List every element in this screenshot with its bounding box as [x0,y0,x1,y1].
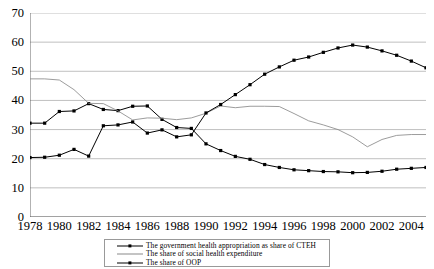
data-point-0-17 [278,166,281,169]
data-point-2-8 [146,131,149,134]
data-point-2-9 [160,128,163,131]
data-point-0-26 [410,167,413,170]
legend-item-2: The share of OOP [105,259,329,267]
y-tick-label-20: 20 [0,152,24,165]
data-point-0-12 [204,142,207,145]
data-point-0-11 [190,127,193,130]
data-point-0-3 [72,109,75,112]
data-point-0-16 [263,163,266,166]
x-tick-label-1994: 1994 [252,220,277,233]
y-tick-label-50: 50 [0,65,24,78]
plot-area [30,13,426,217]
data-point-2-21 [336,46,339,49]
data-point-0-15 [248,158,251,161]
y-tick-label-40: 40 [0,94,24,107]
data-point-0-21 [336,170,339,173]
x-tick-label-1986: 1986 [135,220,160,233]
x-tick-label-2004: 2004 [399,220,424,233]
data-point-2-13 [219,103,222,106]
data-point-2-5 [102,124,105,127]
data-point-2-4 [87,154,90,157]
data-point-2-16 [263,73,266,76]
data-point-0-18 [292,168,295,171]
x-tick-label-1990: 1990 [194,220,219,233]
x-tick-label-1978: 1978 [18,220,43,233]
data-point-2-1 [43,156,46,159]
x-axis-tick-labels: 1978198019821984198619881990199219941996… [30,220,426,236]
series-line-2 [30,45,426,157]
x-tick-label-1998: 1998 [311,220,336,233]
line-key [117,250,143,258]
data-point-2-26 [410,59,413,62]
x-tick-label-1988: 1988 [164,220,189,233]
data-point-0-13 [219,149,222,152]
data-point-0-23 [366,171,369,174]
x-tick-label-2000: 2000 [340,220,365,233]
data-point-2-27 [424,66,426,69]
data-point-0-2 [58,110,61,113]
data-series-layer [30,13,426,217]
x-tick-label-1996: 1996 [282,220,307,233]
series-line-0 [30,104,426,173]
data-point-0-5 [102,108,105,111]
y-tick-label-70: 70 [0,7,24,20]
data-point-0-14 [234,155,237,158]
data-point-2-12 [204,111,207,114]
data-point-0-8 [146,104,149,107]
chart-legend: The government health appropriation as s… [104,239,330,267]
y-tick-label-10: 10 [0,182,24,195]
line-marker-key [117,259,143,267]
legend-label-2: The share of OOP [146,259,201,267]
chart-container: 010203040506070 197819801982198419861988… [0,0,434,269]
legend-key-line [117,254,143,255]
data-point-2-14 [234,93,237,96]
x-tick-label-2002: 2002 [370,220,395,233]
series-line-1 [30,79,426,147]
data-point-2-23 [366,46,369,49]
data-point-2-11 [190,133,193,136]
x-tick-label-1980: 1980 [47,220,72,233]
legend-key-marker [128,261,131,264]
data-point-2-6 [116,123,119,126]
x-tick-label-1992: 1992 [223,220,248,233]
x-tick-label-1982: 1982 [76,220,101,233]
data-point-2-0 [30,156,32,159]
data-point-2-7 [131,120,134,123]
data-point-0-7 [131,105,134,108]
data-point-0-19 [307,169,310,172]
data-point-2-24 [380,49,383,52]
data-point-2-20 [322,51,325,54]
legend-item-1: The share of social health expenditure [105,250,329,258]
legend-key-marker [128,245,131,248]
data-point-0-25 [395,168,398,171]
y-tick-label-30: 30 [0,123,24,136]
y-axis-tick-labels: 010203040506070 [0,13,30,217]
data-point-2-15 [248,83,251,86]
data-point-2-22 [351,43,354,46]
data-point-2-19 [307,55,310,58]
cropped-title-strip [28,0,228,7]
line-marker-key [117,242,143,250]
data-point-2-17 [278,65,281,68]
data-point-0-10 [175,126,178,129]
data-point-0-27 [424,166,426,169]
data-point-0-20 [322,170,325,173]
data-point-2-10 [175,135,178,138]
data-point-2-2 [58,154,61,157]
data-point-0-1 [43,122,46,125]
y-tick-label-60: 60 [0,36,24,49]
data-point-0-0 [30,122,32,125]
x-tick-label-1984: 1984 [106,220,131,233]
data-point-0-22 [351,171,354,174]
data-point-2-18 [292,59,295,62]
data-point-2-3 [72,148,75,151]
data-point-2-25 [395,54,398,57]
data-point-0-24 [380,170,383,173]
